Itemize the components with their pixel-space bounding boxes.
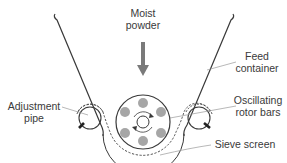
- rotor: [116, 95, 170, 149]
- leader-sieve-screen: [160, 145, 211, 155]
- label-moist-powder: Moist powder: [121, 7, 165, 31]
- label-oscillating-rotor-bars: Oscillating rotor bars: [229, 94, 287, 118]
- label-feed-container-line2: container: [232, 62, 282, 74]
- rotor-bar: [120, 128, 130, 138]
- label-sieve-screen-line1: Sieve screen: [212, 138, 278, 150]
- label-feed-container-line1: Feed: [232, 50, 282, 62]
- label-moist-powder-line1: Moist: [121, 7, 165, 19]
- rotor-bar: [156, 128, 166, 138]
- label-adjustment-pipe-line2: pipe: [5, 112, 63, 124]
- rotor-bar: [138, 98, 148, 108]
- rotor-bar: [120, 107, 130, 117]
- label-moist-powder-line2: powder: [121, 19, 165, 31]
- label-feed-container: Feed container: [232, 50, 282, 74]
- granulator-diagram: Moist powder Feed container Oscillating …: [0, 0, 287, 163]
- label-rotor-bars-line2: rotor bars: [229, 106, 287, 118]
- moist-powder-arrow-icon: [137, 42, 149, 76]
- rotor-bar: [156, 107, 166, 117]
- label-adjustment-pipe-line1: Adjustment: [5, 100, 63, 112]
- label-sieve-screen: Sieve screen: [212, 138, 278, 150]
- rotor-bar: [138, 136, 148, 146]
- label-adjustment-pipe: Adjustment pipe: [5, 100, 63, 124]
- rotor-shaft-icon: [137, 116, 149, 128]
- label-rotor-bars-line1: Oscillating: [229, 94, 287, 106]
